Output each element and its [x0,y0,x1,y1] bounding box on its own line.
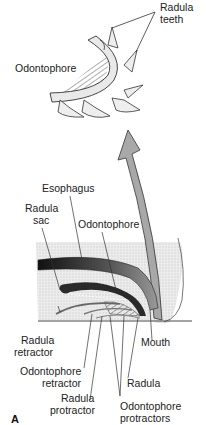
label-radula-sac-line2: sac [33,215,49,226]
label-radula-teeth-line1: Radula [160,2,193,13]
label-radula-protractor-line1: Radula [61,393,94,404]
panel-label: A [11,413,19,425]
buccal-mass-diagram [36,130,192,400]
label-mouth: Mouth [141,337,170,348]
label-odontophore-retractor-line2: retractor [42,378,81,389]
label-radula-protractor-line2: protractor [50,405,95,416]
label-radula: Radula [127,378,160,389]
label-odontophore-detail: Odontophore [15,63,76,74]
label-radula-retractor-line1: Radula [21,335,54,346]
label-odontophore-retractor-line1: Odontophore [20,366,81,377]
label-esophagus: Esophagus [42,183,95,194]
label-odontophore-protractors-line1: Odontophore [120,401,181,412]
label-radula-retractor-line2: retractor [14,347,53,358]
label-odontophore-protractors-line2: protractors [120,413,170,424]
label-radula-sac-line1: Radula [25,203,58,214]
label-odontophore-main: Odontophore [78,219,139,230]
label-radula-teeth-line2: teeth [160,14,183,25]
